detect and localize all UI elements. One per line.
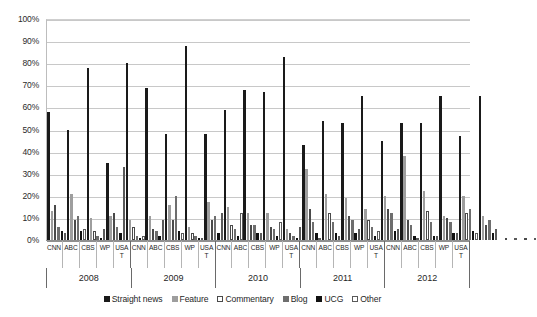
bar-group xyxy=(282,19,302,240)
bar xyxy=(247,213,249,240)
category-axis-label: WP xyxy=(351,244,367,252)
category-axis-cell: WP xyxy=(436,241,453,268)
bar xyxy=(479,96,481,240)
bar xyxy=(505,238,507,240)
bar xyxy=(492,233,494,240)
category-axis-cell: CNN xyxy=(385,241,402,268)
category-axis-label: USA T xyxy=(114,244,130,259)
year-axis-label: 2011 xyxy=(333,273,352,283)
legend-item-label: Feature xyxy=(180,294,209,304)
bar xyxy=(488,220,490,240)
bar xyxy=(256,233,258,240)
legend-item[interactable]: Blog xyxy=(283,294,308,304)
bar xyxy=(446,218,448,240)
y-axis-tick-80: 80% xyxy=(23,58,39,68)
legend-item[interactable]: Other xyxy=(352,294,381,304)
bar-group xyxy=(400,19,420,240)
category-axis-cell: CBS xyxy=(419,241,436,268)
bar xyxy=(175,196,177,240)
legend-swatch-ucg xyxy=(316,296,322,302)
bar xyxy=(155,231,157,240)
bar xyxy=(234,229,236,240)
bar xyxy=(364,209,366,240)
y-axis-tick-30: 30% xyxy=(23,169,39,179)
legend-swatch-commentary xyxy=(217,296,223,302)
legend-item[interactable]: Feature xyxy=(172,294,209,304)
bar-group xyxy=(458,19,478,240)
category-axis-cell: USA T xyxy=(114,241,131,268)
bar-group xyxy=(341,19,361,240)
bar xyxy=(407,220,409,240)
legend-item-label: Blog xyxy=(291,294,308,304)
category-axis-label: WP xyxy=(97,244,113,252)
bar xyxy=(394,231,396,240)
bar xyxy=(305,169,307,240)
y-axis-tick-60: 60% xyxy=(23,102,39,112)
bar xyxy=(328,213,330,240)
bar xyxy=(204,134,206,240)
bar xyxy=(224,110,226,240)
legend-swatch-blog xyxy=(283,296,289,302)
bar xyxy=(390,213,392,240)
bar xyxy=(286,229,288,240)
category-axis-cell: WP xyxy=(266,241,283,268)
category-axis-label: USA T xyxy=(368,244,384,259)
bar xyxy=(263,92,265,240)
y-axis-tick-100: 100% xyxy=(18,14,39,24)
bar-group xyxy=(145,19,165,240)
bar xyxy=(116,227,118,240)
bar xyxy=(70,194,72,240)
bar xyxy=(472,231,474,240)
category-axis: CNNABCCBSWPUSA TCNNABCCBSWPUSA TCNNABCCB… xyxy=(46,240,470,268)
bar xyxy=(361,96,363,240)
bar xyxy=(322,121,324,240)
bar xyxy=(87,68,89,240)
category-axis-cell: CBS xyxy=(334,241,351,268)
bar-group xyxy=(47,19,67,240)
bar xyxy=(459,136,461,240)
category-axis-cell: WP xyxy=(182,241,199,268)
bar xyxy=(109,216,111,240)
category-axis-cell: ABC xyxy=(402,241,419,268)
bar-group xyxy=(321,19,341,240)
bar xyxy=(426,211,428,240)
category-axis-cell: CNN xyxy=(131,241,148,268)
bar xyxy=(469,209,471,240)
legend-item[interactable]: Commentary xyxy=(217,294,273,304)
bar xyxy=(381,141,383,240)
bar xyxy=(332,222,334,240)
bar-group xyxy=(419,19,439,240)
bar xyxy=(145,88,147,240)
bar-group xyxy=(125,19,145,240)
bar xyxy=(400,123,402,240)
bar xyxy=(534,238,536,240)
year-axis-label: 2010 xyxy=(248,273,268,283)
legend-swatch-other xyxy=(352,296,358,302)
bar xyxy=(348,216,350,240)
bar xyxy=(325,194,327,240)
bar xyxy=(452,233,454,240)
bar xyxy=(371,227,373,240)
bar xyxy=(367,220,369,240)
year-axis-label: 2012 xyxy=(417,273,437,283)
category-axis-label: CNN xyxy=(385,244,401,252)
legend-item[interactable]: UCG xyxy=(316,294,343,304)
bar xyxy=(289,233,291,240)
legend-item[interactable]: Straight news xyxy=(104,294,163,304)
bar xyxy=(67,130,69,241)
bar xyxy=(165,134,167,240)
category-axis-cell: ABC xyxy=(232,241,249,268)
y-axis-tick-50: 50% xyxy=(23,125,39,135)
bar xyxy=(188,227,190,240)
bar xyxy=(57,227,59,240)
bar xyxy=(152,229,154,240)
category-axis-label: USA T xyxy=(453,244,469,259)
bar xyxy=(253,225,255,240)
bar xyxy=(335,233,337,240)
category-axis-cell: ABC xyxy=(63,241,80,268)
bar xyxy=(387,209,389,240)
bar xyxy=(443,216,445,240)
bar-group xyxy=(380,19,400,240)
y-axis-tick-70: 70% xyxy=(23,80,39,90)
